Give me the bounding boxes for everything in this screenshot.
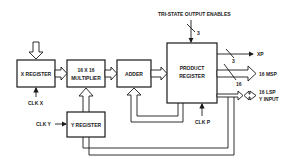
multiplier-block: 16 X 16 MULTIPLIER bbox=[67, 60, 105, 87]
y-input-return-lines bbox=[83, 97, 234, 155]
adder-label: ADDER bbox=[125, 71, 143, 77]
xp-label: XP bbox=[257, 51, 264, 57]
x-register-label: X REGISTER bbox=[21, 71, 52, 77]
clk-p-label: CLK P bbox=[195, 119, 211, 125]
product-register-label-line1: PRODUCT bbox=[180, 65, 205, 71]
x-input-bus-arrow bbox=[29, 42, 43, 59]
y-to-multiplier-bus bbox=[79, 88, 93, 112]
tri-state-enables-label: TRI-STATE OUTPUT ENABLES bbox=[158, 11, 231, 17]
adder-to-product-bus bbox=[151, 67, 167, 80]
adder-block: ADDER bbox=[117, 60, 151, 87]
xp-width-label: 3 bbox=[232, 58, 235, 64]
multiplier-label-line1: 16 X 16 bbox=[77, 67, 94, 73]
clk-y-label: CLK Y bbox=[36, 121, 52, 127]
multiplier-label-line2: MULTIPLIER bbox=[71, 75, 101, 81]
msp-width-label: 16 bbox=[236, 81, 242, 87]
multiplier-block-diagram: TRI-STATE OUTPUT ENABLES 3 X REGISTER CL… bbox=[0, 0, 297, 165]
y-register-block: Y REGISTER bbox=[67, 112, 105, 137]
y-register-label: Y REGISTER bbox=[71, 122, 102, 128]
lsp-y-input-bus: 16 LSP Y INPUT bbox=[217, 89, 279, 102]
product-register-label-line2: REGISTER bbox=[179, 73, 205, 79]
product-register-block: PRODUCT REGISTER bbox=[167, 43, 217, 103]
xp-output: 3 XP bbox=[217, 49, 264, 64]
clk-x-label: CLK X bbox=[28, 100, 44, 106]
x-to-multiplier-bus bbox=[55, 67, 67, 80]
enables-line: 3 bbox=[187, 20, 200, 42]
x-register-block: X REGISTER bbox=[17, 60, 55, 87]
multiplier-to-adder-bus bbox=[105, 67, 117, 80]
clk-p: CLK P bbox=[195, 104, 211, 125]
lsp-label-line2: Y INPUT bbox=[259, 96, 279, 102]
enables-width-label: 3 bbox=[197, 30, 200, 36]
lsp-label-line1: 16 LSP bbox=[259, 89, 276, 95]
msp-label: 16 MSP bbox=[259, 71, 277, 77]
clk-x: CLK X bbox=[28, 88, 44, 106]
clk-y: CLK Y bbox=[36, 121, 66, 127]
msp-output: 16 16 MSP bbox=[217, 64, 277, 87]
